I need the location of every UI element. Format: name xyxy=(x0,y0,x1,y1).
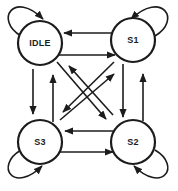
state-label-s2: S2 xyxy=(127,137,139,147)
transition-s3-to-s1 xyxy=(60,74,114,120)
state-diagram: IDLE S1 S3 S2 xyxy=(0,0,178,191)
transition-s1-to-s3 xyxy=(63,62,114,112)
state-label-idle: IDLE xyxy=(29,38,51,48)
state-label-s1: S1 xyxy=(127,35,139,45)
state-diagram-canvas: IDLE S1 S3 S2 xyxy=(0,0,178,191)
state-label-s3: S3 xyxy=(34,137,46,147)
